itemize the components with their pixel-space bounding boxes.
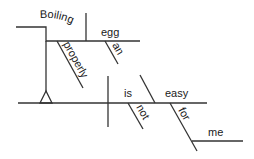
word-is: is — [124, 87, 132, 99]
word-properly: properly — [61, 39, 91, 80]
sentence-diagram: Boiling egg properly an is easy not for … — [0, 0, 254, 159]
gerund-baseline — [16, 27, 140, 41]
complement-divider — [140, 75, 155, 103]
word-me: me — [208, 126, 223, 138]
word-egg: egg — [101, 26, 119, 38]
word-easy: easy — [165, 87, 189, 99]
word-boiling: Boiling — [40, 8, 76, 26]
pedestal-base — [40, 91, 52, 103]
